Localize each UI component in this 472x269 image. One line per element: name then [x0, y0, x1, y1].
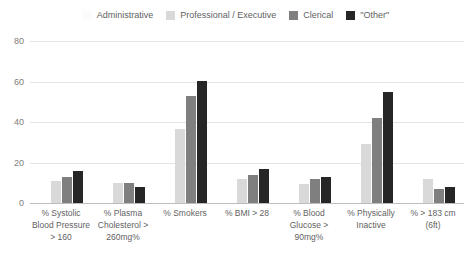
legend-item-label: Clerical [303, 10, 333, 20]
legend-swatch-icon [289, 11, 298, 20]
bar[interactable] [51, 181, 61, 203]
bar[interactable] [361, 144, 371, 203]
bar[interactable] [445, 187, 455, 203]
bar[interactable] [423, 179, 433, 203]
bar[interactable] [186, 96, 196, 203]
chart-legend: AdministrativeProfessional / ExecutiveCl… [0, 10, 472, 20]
plot-area: 806040200 [30, 41, 464, 203]
axis-baseline: 0 [30, 203, 464, 204]
bar-groups [30, 41, 464, 203]
x-axis-category-label: % Smokers [154, 207, 216, 243]
legend-swatch-icon [166, 11, 175, 20]
bar[interactable] [310, 179, 320, 203]
legend-item[interactable]: "Other" [346, 10, 389, 20]
x-axis-category-label: % Systolic Blood Pressure > 160 [30, 207, 92, 243]
legend-item[interactable]: Administrative [83, 10, 154, 20]
bar[interactable] [259, 169, 269, 203]
x-axis-labels: % Systolic Blood Pressure > 160% Plasma … [30, 207, 464, 243]
bar-group [340, 41, 402, 203]
x-axis-category-label: % Blood Glucose > 90mg% [278, 207, 340, 243]
bar[interactable] [62, 177, 72, 203]
bar-group [154, 41, 216, 203]
legend-item[interactable]: Professional / Executive [166, 10, 276, 20]
legend-item-label: Administrative [97, 10, 154, 20]
bar[interactable] [321, 177, 331, 203]
bar[interactable] [372, 118, 382, 203]
bar[interactable] [73, 171, 83, 203]
bar-group [92, 41, 154, 203]
x-axis-category-label: % > 183 cm (6ft) [402, 207, 464, 243]
bar[interactable] [135, 187, 145, 203]
x-axis-category-label: % Physically Inactive [340, 207, 402, 243]
x-axis-category-label: % Plasma Cholesterol > 260mg% [92, 207, 154, 243]
y-axis-tick-label: 60 [14, 77, 24, 86]
legend-item-label: Professional / Executive [180, 10, 276, 20]
bar-group [278, 41, 340, 203]
bar[interactable] [124, 183, 134, 203]
bar-group [402, 41, 464, 203]
y-axis-tick-label: 40 [14, 118, 24, 127]
bar[interactable] [197, 81, 207, 204]
x-axis-category-label: % BMI > 28 [216, 207, 278, 243]
legend-item[interactable]: Clerical [289, 10, 333, 20]
bar-group [216, 41, 278, 203]
bar[interactable] [248, 175, 258, 203]
bar[interactable] [299, 184, 309, 203]
bar[interactable] [113, 183, 123, 203]
legend-swatch-icon [346, 11, 355, 20]
bar[interactable] [434, 189, 444, 203]
legend-swatch-icon [83, 11, 92, 20]
y-axis-tick-label: 20 [14, 158, 24, 167]
bar[interactable] [383, 92, 393, 203]
bar[interactable] [237, 179, 247, 203]
y-axis-tick-label: 0 [19, 199, 24, 208]
bar-chart: AdministrativeProfessional / ExecutiveCl… [0, 0, 472, 269]
y-axis-tick-label: 80 [14, 37, 24, 46]
bar-group [30, 41, 92, 203]
legend-item-label: "Other" [360, 10, 389, 20]
bar[interactable] [175, 129, 185, 203]
